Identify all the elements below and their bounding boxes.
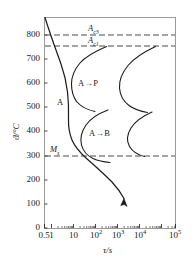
ms-label-sub: s: [57, 150, 59, 156]
x-axis-ticks: [45, 224, 176, 228]
bainite-finish-curve: [128, 112, 152, 157]
ac3-label: Ac3: [88, 24, 99, 33]
cooling-curve-arrowhead: [121, 199, 127, 207]
y-tick-500: 500: [18, 102, 40, 111]
ac3-label-sub: c3: [93, 29, 99, 35]
a-to-b-to: B: [104, 128, 110, 138]
x-tick-100-exp: 2: [99, 228, 102, 235]
x-tick-1000: 103: [110, 231, 126, 240]
a-to-p-to: P: [93, 78, 98, 88]
x-axis-minor-ticks: [58, 226, 175, 228]
ac1-label: Ac1: [88, 36, 99, 45]
region-label-austenite-to-bainite: A→B: [89, 129, 110, 138]
arrow-right-icon: →: [84, 79, 93, 88]
x-axis-title: τ/s: [103, 246, 112, 255]
y-tick-600: 600: [18, 78, 40, 87]
plot-frame: [45, 18, 176, 229]
x-tick-100000-base: 10: [169, 230, 178, 240]
y-tick-200: 200: [18, 175, 40, 184]
region-label-austenite-to-pearlite: A→P: [78, 79, 98, 88]
x-tick-10000: 104: [132, 231, 148, 240]
ms-label: Ms: [50, 145, 59, 154]
x-tick-10000-base: 10: [134, 230, 143, 240]
y-tick-400: 400: [18, 126, 40, 135]
y-tick-100: 100: [18, 199, 40, 208]
x-tick-100000: 105: [167, 231, 183, 240]
ac1-label-sub: c1: [93, 41, 99, 47]
region-label-austenite: A: [57, 98, 63, 107]
x-tick-1000-base: 10: [112, 230, 121, 240]
y-tick-300: 300: [18, 151, 40, 160]
x-tick-10000-exp: 4: [143, 228, 146, 235]
y-tick-800: 800: [18, 30, 40, 39]
x-tick-10: 10: [67, 231, 80, 240]
x-tick-1: 1: [47, 231, 56, 240]
y-tick-700: 700: [18, 54, 40, 63]
x-tick-100: 102: [88, 231, 104, 240]
y-axis-title: ϑ/°C: [12, 123, 21, 140]
x-tick-1000-exp: 3: [121, 228, 124, 235]
x-tick-100000-exp: 5: [178, 228, 181, 235]
x-tick-100-base: 10: [90, 230, 99, 240]
ttt-diagram-figure: 800 700 600 500 400 300 200 100 0 ϑ/°C 0…: [0, 0, 196, 269]
pearlite-finish-curve: [119, 47, 155, 113]
arrow-right-icon: →: [95, 129, 104, 138]
